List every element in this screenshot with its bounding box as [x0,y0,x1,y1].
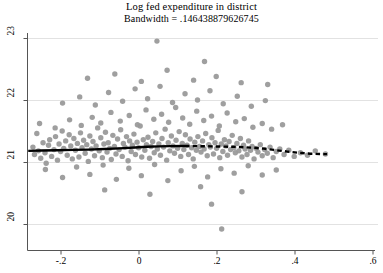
x-tick-label: .2 [197,256,237,266]
y-tick-label: 23 [6,26,16,48]
x-tick-label: 0 [119,256,159,266]
y-tick-label: 20 [6,212,16,234]
x-tick-label: .6 [353,256,383,266]
y-tick-label: 21 [6,150,16,172]
plot-canvas [0,0,383,273]
scatter-points [30,38,328,231]
x-tick-label: -.2 [41,256,81,266]
y-tick-label: 22 [6,88,16,110]
plot-area: 20212223 -.20.2.4.6 [0,0,383,273]
chart-root: Log fed expenditure in district Bandwidt… [0,0,383,273]
x-tick-label: .4 [275,256,315,266]
